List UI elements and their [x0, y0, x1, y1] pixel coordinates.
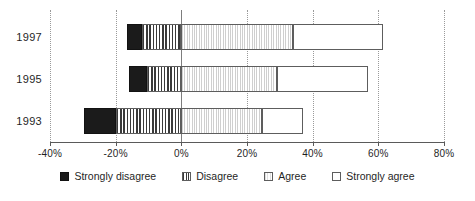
bar-segment-strongly-agree[interactable]	[293, 24, 383, 50]
bar-segment-disagree[interactable]	[147, 66, 181, 92]
bar-segment-strongly-agree[interactable]	[277, 66, 369, 92]
bar-segment-strongly-disagree[interactable]	[84, 108, 115, 134]
legend-item-agree[interactable]: Agree	[264, 170, 306, 182]
category-label-1995: 1995	[0, 73, 42, 85]
x-tick	[181, 142, 182, 146]
bar-row[interactable]	[50, 66, 444, 92]
bar-row[interactable]	[50, 108, 444, 134]
legend-label: Strongly agree	[346, 170, 414, 182]
x-tick-label: 80%	[414, 148, 474, 159]
category-label-1997: 1997	[0, 31, 42, 43]
x-tick	[313, 142, 314, 146]
legend-swatch-disagree-icon	[182, 172, 191, 181]
bar-segment-disagree[interactable]	[116, 108, 182, 134]
stacked-bar-chart: -40%-20%0%20%40%60%80% 199719951993 Stro…	[0, 0, 475, 201]
bar-segment-disagree[interactable]	[142, 24, 181, 50]
x-tick	[50, 142, 51, 146]
bar-segment-strongly-disagree[interactable]	[127, 24, 142, 50]
bar-segment-strongly-disagree[interactable]	[129, 66, 147, 92]
legend-item-disagree[interactable]: Disagree	[182, 170, 238, 182]
x-tick	[247, 142, 248, 146]
x-tick	[444, 142, 445, 146]
x-tick-label: 40%	[283, 148, 343, 159]
gridline-80	[444, 10, 445, 142]
chart-legend: Strongly disagreeDisagreeAgreeStrongly a…	[0, 170, 475, 182]
x-tick-label: 60%	[348, 148, 408, 159]
legend-swatch-strongly-disagree-icon	[60, 172, 69, 181]
legend-label: Disagree	[196, 170, 238, 182]
legend-swatch-strongly-agree-icon	[332, 172, 341, 181]
legend-item-strongly-agree[interactable]: Strongly agree	[332, 170, 414, 182]
x-tick-label: -20%	[86, 148, 146, 159]
x-tick	[116, 142, 117, 146]
bar-segment-strongly-agree[interactable]	[262, 108, 303, 134]
bar-segment-agree[interactable]	[181, 24, 293, 50]
legend-label: Strongly disagree	[74, 170, 156, 182]
x-tick-label: 0%	[151, 148, 211, 159]
category-label-1993: 1993	[0, 115, 42, 127]
bar-row[interactable]	[50, 24, 444, 50]
legend-item-strongly-disagree[interactable]: Strongly disagree	[60, 170, 156, 182]
x-tick-label: 20%	[217, 148, 277, 159]
legend-swatch-agree-icon	[264, 172, 273, 181]
x-tick-label: -40%	[20, 148, 80, 159]
legend-label: Agree	[278, 170, 306, 182]
x-tick	[378, 142, 379, 146]
bar-segment-agree[interactable]	[181, 108, 261, 134]
plot-area	[50, 10, 444, 142]
bar-segment-agree[interactable]	[181, 66, 276, 92]
